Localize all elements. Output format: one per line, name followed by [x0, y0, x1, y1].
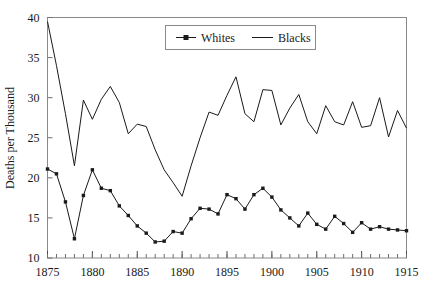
- series-marker-whites: [64, 200, 67, 203]
- series-marker-whites: [136, 224, 139, 227]
- series-marker-whites: [225, 193, 228, 196]
- series-marker-whites: [333, 215, 336, 218]
- series-marker-whites: [162, 239, 165, 242]
- series-marker-whites: [243, 207, 246, 210]
- series-marker-whites: [171, 230, 174, 233]
- x-axis-minor-ticks: [48, 254, 407, 258]
- x-tick-label: 1915: [395, 265, 419, 279]
- y-tick-label: 15: [28, 211, 40, 225]
- x-tick-label: 1875: [36, 265, 60, 279]
- series-marker-whites: [279, 208, 282, 211]
- series-marker-whites: [91, 168, 94, 171]
- series-marker-whites: [351, 231, 354, 234]
- series-marker-whites: [127, 214, 130, 217]
- x-tick-label: 1890: [170, 265, 194, 279]
- x-tick-label: 1880: [80, 265, 104, 279]
- series-marker-whites: [315, 223, 318, 226]
- series-marker-whites: [306, 211, 309, 214]
- series-marker-whites: [180, 231, 183, 234]
- series-marker-whites: [270, 195, 273, 198]
- legend-label-whites: Whites: [201, 31, 235, 45]
- series-marker-whites: [207, 207, 210, 210]
- chart-legend: Whites Blacks: [166, 26, 316, 50]
- x-tick-label: 1910: [350, 265, 374, 279]
- x-tick-label: 1905: [305, 265, 329, 279]
- series-marker-whites: [396, 228, 399, 231]
- x-tick-label: 1900: [260, 265, 284, 279]
- series-marker-whites: [342, 222, 345, 225]
- deaths-per-thousand-line-chart: Deaths per Thousand 10152025303540 18751…: [0, 0, 440, 295]
- y-tick-label: 25: [28, 131, 40, 145]
- series-marker-whites: [252, 193, 255, 196]
- y-tick-label: 30: [28, 91, 40, 105]
- y-tick-label: 20: [28, 171, 40, 185]
- y-tick-label: 10: [28, 251, 40, 265]
- x-tick-label: 1885: [125, 265, 149, 279]
- series-marker-whites: [154, 240, 157, 243]
- y-tick-label: 35: [28, 51, 40, 65]
- series-marker-whites: [118, 204, 121, 207]
- legend-marker-whites: [184, 35, 189, 40]
- series-marker-whites: [369, 227, 372, 230]
- series-marker-whites: [189, 217, 192, 220]
- series-marker-whites: [73, 237, 76, 240]
- series-marker-whites: [387, 227, 390, 230]
- series-marker-whites: [216, 212, 219, 215]
- series-marker-whites: [234, 197, 237, 200]
- series-marker-whites: [145, 231, 148, 234]
- series-marker-whites: [109, 189, 112, 192]
- x-tick-label: 1895: [215, 265, 239, 279]
- series-marker-whites: [261, 187, 264, 190]
- series-marker-whites: [288, 216, 291, 219]
- series-marker-whites: [297, 224, 300, 227]
- y-axis-title: Deaths per Thousand: [3, 87, 17, 189]
- legend-label-blacks: Blacks: [278, 31, 311, 45]
- y-tick-label: 40: [28, 11, 40, 25]
- series-marker-whites: [82, 194, 85, 197]
- series-marker-whites: [55, 172, 58, 175]
- series-marker-whites: [100, 187, 103, 190]
- series-marker-whites: [324, 227, 327, 230]
- series-marker-whites: [198, 207, 201, 210]
- series-marker-whites: [360, 221, 363, 224]
- chart-figure: Deaths per Thousand 10152025303540 18751…: [0, 0, 440, 295]
- series-marker-whites: [405, 229, 408, 232]
- series-marker-whites: [378, 225, 381, 228]
- series-marker-whites: [46, 167, 49, 170]
